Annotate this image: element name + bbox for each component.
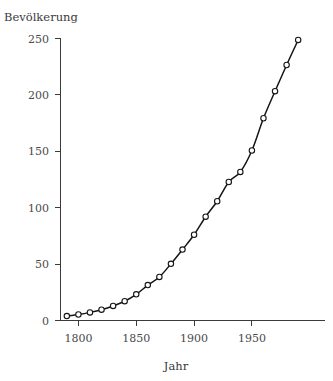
x-tick-label-1900: 1900 bbox=[180, 332, 208, 345]
y-axis-ticks: 0 50 100 150 200 250 bbox=[28, 33, 61, 328]
data-point-marker bbox=[180, 247, 185, 252]
population-chart-figure: Bevölkerung 0 50 100 150 200 250 1800 18… bbox=[0, 0, 333, 381]
data-point-marker bbox=[110, 303, 115, 308]
data-point-marker bbox=[157, 274, 162, 279]
data-point-marker bbox=[168, 261, 173, 266]
data-point-marker bbox=[272, 88, 277, 93]
data-point-marker bbox=[191, 232, 196, 237]
data-point-marker bbox=[122, 299, 127, 304]
x-axis-title: Jahr bbox=[163, 359, 189, 373]
y-tick-label-0: 0 bbox=[42, 315, 49, 328]
data-point-marker bbox=[64, 313, 69, 318]
x-tick-label-1800: 1800 bbox=[64, 332, 92, 345]
data-point-marker bbox=[295, 37, 300, 42]
data-point-marker bbox=[249, 148, 254, 153]
data-point-marker bbox=[284, 62, 289, 67]
chart-canvas: Bevölkerung 0 50 100 150 200 250 1800 18… bbox=[0, 0, 333, 381]
y-tick-label-150: 150 bbox=[28, 145, 49, 158]
data-point-marker bbox=[145, 282, 150, 287]
y-tick-label-200: 200 bbox=[28, 89, 49, 102]
fit-curve bbox=[67, 40, 298, 316]
data-point-marker bbox=[87, 310, 92, 315]
data-point-marker bbox=[215, 199, 220, 204]
x-axis-ticks: 1800 1850 1900 1950 bbox=[64, 321, 266, 346]
y-tick-label-250: 250 bbox=[28, 33, 49, 46]
x-tick-label-1950: 1950 bbox=[238, 332, 266, 345]
data-point-marker bbox=[261, 116, 266, 121]
data-point-marker bbox=[76, 312, 81, 317]
y-tick-label-100: 100 bbox=[28, 202, 49, 215]
x-tick-label-1850: 1850 bbox=[122, 332, 150, 345]
data-point-marker bbox=[203, 214, 208, 219]
data-point-marker bbox=[99, 307, 104, 312]
data-point-markers bbox=[64, 37, 301, 319]
data-point-marker bbox=[238, 169, 243, 174]
data-point-marker bbox=[134, 292, 139, 297]
y-tick-label-50: 50 bbox=[35, 258, 49, 271]
data-point-marker bbox=[226, 179, 231, 184]
y-axis-title: Bevölkerung bbox=[4, 10, 78, 24]
